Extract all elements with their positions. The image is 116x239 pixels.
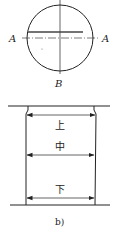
left-wall	[26, 106, 28, 205]
label-a-right: A	[101, 33, 109, 44]
right-wall	[94, 106, 96, 205]
figure-b-side-view: 上 中 下 b)	[8, 106, 110, 227]
cylinder-bore-diagram: A A B 上 中 下 b)	[0, 0, 116, 239]
label-bottom: 下	[55, 184, 65, 195]
measurement-middle: 中	[27, 140, 94, 155]
label-a-left: A	[8, 33, 16, 44]
figure-caption: b)	[55, 217, 64, 227]
measurement-bottom: 下	[27, 184, 94, 198]
small-dot	[41, 48, 42, 49]
label-b: B	[54, 78, 62, 89]
measurement-top: 上	[27, 115, 95, 131]
label-middle: 中	[55, 140, 65, 152]
figure-a-top-view: A A B	[8, 0, 109, 89]
label-top: 上	[55, 120, 65, 131]
